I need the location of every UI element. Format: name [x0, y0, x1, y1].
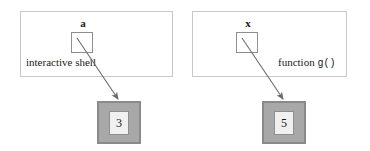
scope-label-function-g: function g() — [278, 56, 335, 70]
value-5: 5 — [274, 111, 294, 135]
scope-label-prefix: function — [278, 56, 317, 68]
scope-label-call: g() — [317, 58, 335, 69]
value-3: 3 — [109, 111, 129, 135]
variable-name-a: a — [71, 18, 95, 29]
value-box-3: 3 — [97, 101, 141, 144]
scope-label-interactive-shell: interactive shell — [26, 56, 96, 68]
variable-box-a — [71, 32, 93, 53]
value-box-5: 5 — [262, 101, 306, 144]
variable-box-x — [236, 32, 258, 53]
diagram-canvas: a interactive shell 3 x function g() 5 — [0, 0, 370, 151]
variable-name-x: x — [236, 18, 260, 29]
